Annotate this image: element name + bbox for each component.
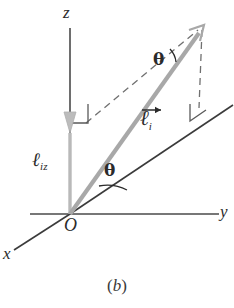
theta-upper-label: θ bbox=[153, 51, 164, 68]
vector-overarrow-icon bbox=[141, 105, 163, 113]
theta-lower-label: θ bbox=[104, 162, 115, 179]
l-iz-label-base: ℓ bbox=[32, 148, 40, 170]
l-i-label-stack: ℓi bbox=[140, 108, 152, 132]
caption-letter: b bbox=[113, 276, 122, 295]
dashed-line-tip-to-plane bbox=[199, 30, 202, 108]
figure-caption: (b) bbox=[0, 276, 234, 296]
l-i-label: ℓi bbox=[140, 108, 152, 132]
theta-lower-arc-icon bbox=[99, 185, 127, 190]
l-i-label-subscript: i bbox=[149, 120, 152, 132]
z-axis-label: z bbox=[63, 4, 70, 21]
l-iz-label: ℓiz bbox=[32, 150, 48, 172]
figure-panel-b: z y x O θ θ ℓiz ℓi (b) bbox=[0, 0, 234, 308]
l-iz-label-subscript: iz bbox=[40, 160, 48, 172]
x-axis-label: x bbox=[3, 245, 11, 262]
y-axis-label: y bbox=[220, 203, 228, 220]
origin-label: O bbox=[64, 216, 77, 234]
caption-close-paren: ) bbox=[121, 276, 127, 295]
l-i-vector-shaft bbox=[70, 33, 199, 214]
x-axis-line bbox=[14, 214, 70, 250]
right-angle-marker-plane-icon bbox=[190, 104, 206, 121]
